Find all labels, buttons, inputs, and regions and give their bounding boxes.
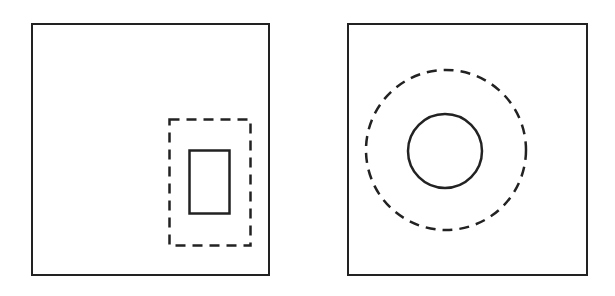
solid-inner-rectangle bbox=[190, 151, 230, 214]
left-panel bbox=[32, 24, 269, 275]
right-panel bbox=[348, 24, 587, 275]
diagram-canvas bbox=[0, 0, 615, 296]
dashed-outer-circle bbox=[366, 70, 526, 230]
solid-inner-circle bbox=[408, 114, 482, 188]
dashed-outer-rectangle bbox=[170, 120, 251, 246]
left-panel-frame bbox=[32, 24, 269, 275]
right-panel-frame bbox=[348, 24, 587, 275]
